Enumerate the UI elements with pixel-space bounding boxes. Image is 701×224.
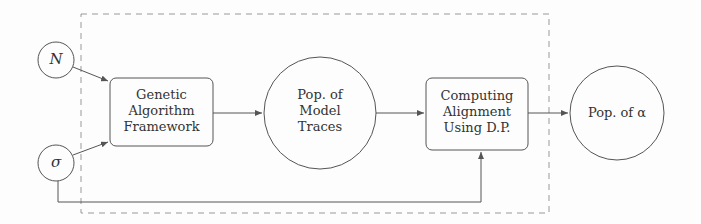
traces-line-1: Pop. of <box>264 87 376 103</box>
align-label: Computing Alignment Using D.P. <box>426 88 528 136</box>
output-label: Pop. of α <box>570 105 664 121</box>
edge-sigma-ga <box>73 142 108 155</box>
edge-sigma-align <box>58 152 481 202</box>
ga-line-1: Genetic <box>110 87 213 103</box>
edge-N-ga <box>73 67 108 81</box>
input-sigma-label: σ <box>38 154 74 170</box>
diagram-canvas: N σ Genetic Algorithm Framework Pop. of … <box>0 0 701 224</box>
traces-label: Pop. of Model Traces <box>264 87 376 135</box>
traces-line-2: Model <box>264 103 376 119</box>
align-line-1: Computing <box>426 88 528 104</box>
align-line-2: Alignment <box>426 104 528 120</box>
traces-line-3: Traces <box>264 119 376 135</box>
ga-label: Genetic Algorithm Framework <box>110 87 213 135</box>
align-line-3: Using D.P. <box>426 120 528 136</box>
input-N-label: N <box>38 51 74 67</box>
ga-line-3: Framework <box>110 119 213 135</box>
ga-line-2: Algorithm <box>110 103 213 119</box>
